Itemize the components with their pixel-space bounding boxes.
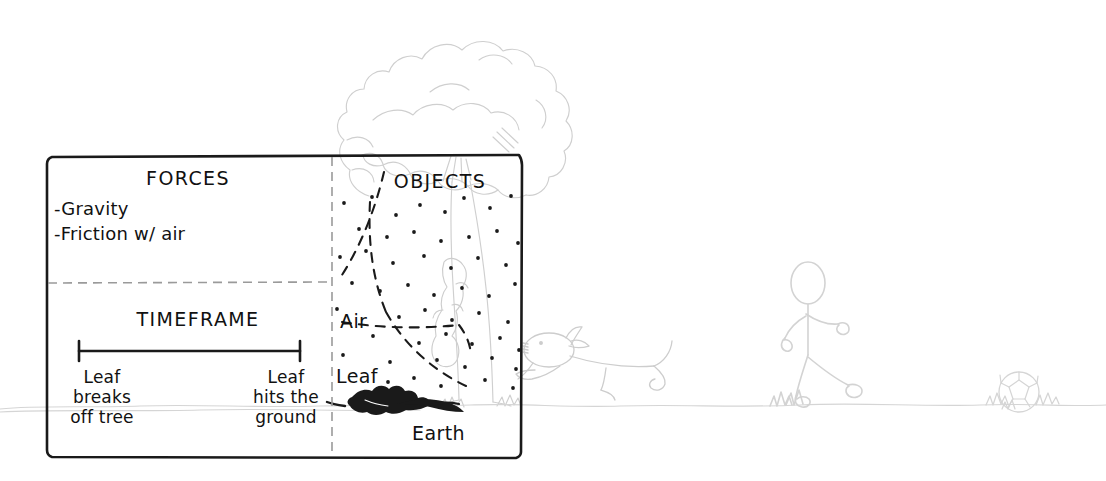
objects-label-leaf: Leaf (336, 365, 378, 387)
timeframe-bar (79, 341, 300, 361)
timeframe-end-label: Leaf hits the ground (238, 367, 334, 427)
forces-heading: FORCES (108, 167, 268, 189)
forces-timeframe-divider (48, 282, 331, 283)
objects-label-air: Air (340, 310, 367, 332)
objects-label-earth: Earth (412, 422, 465, 444)
forces-item-gravity: -Gravity (54, 198, 129, 219)
timeframe-heading: TIMEFRAME (108, 308, 288, 330)
forces-item-friction: -Friction w/ air (54, 223, 185, 244)
timeframe-start-label: Leaf breaks off tree (54, 367, 150, 427)
objects-heading: OBJECTS (385, 170, 495, 192)
diagram-canvas: FORCES -Gravity -Friction w/ air TIMEFRA… (0, 0, 1106, 481)
